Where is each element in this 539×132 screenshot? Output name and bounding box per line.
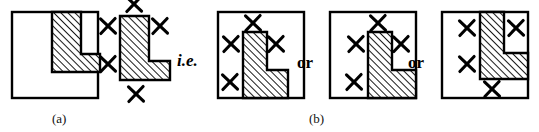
caption-a: (a)	[52, 112, 66, 125]
x-mark-right-icon	[153, 19, 168, 34]
square-with-L-top-right	[424, 0, 539, 130]
figure-canvas: i.e.oror(a)(b)	[0, 0, 539, 132]
connector-or-1: or	[297, 54, 313, 71]
caption-b: (b)	[309, 112, 324, 125]
connector-or-2: or	[408, 54, 424, 71]
x-mark-lower-left-icon	[101, 57, 116, 72]
x-mark-top-icon	[127, 0, 142, 12]
x-mark-bottom-icon	[129, 87, 144, 102]
connector-ie: i.e.	[177, 52, 198, 69]
x-mark-upper-left-icon	[101, 19, 116, 34]
